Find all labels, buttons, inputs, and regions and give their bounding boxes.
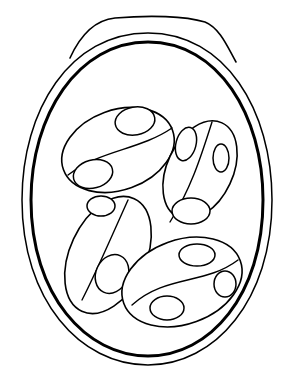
outer-cap-wall bbox=[70, 16, 236, 62]
oocyst-illustration bbox=[0, 0, 296, 385]
